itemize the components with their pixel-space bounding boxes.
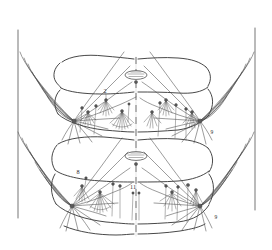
label-seta-9-upper: 9 [211, 129, 214, 135]
label-seta-8: 8 [76, 168, 79, 175]
seta-stalk-lower-left-b [119, 185, 122, 218]
spiracle-lower [125, 152, 147, 166]
spiracle-upper [125, 71, 147, 84]
tufted-seta-lower-left-a [74, 185, 89, 203]
palmate-seta-upper-right [140, 52, 254, 144]
palmate-seta-upper-left [20, 52, 136, 144]
scientific-line-drawing: 2 9 8 11 9 [0, 0, 272, 250]
seta-stalk-lower-right-c [165, 185, 168, 219]
tufted-seta-lower-right-a [160, 191, 186, 212]
tufted-seta-upper-right-b [158, 99, 174, 117]
seta-stalk-upper-right-b [175, 104, 178, 138]
figure-root: 2 9 8 11 9 [0, 0, 272, 250]
label-seta-11: 11 [130, 183, 136, 190]
label-seta-9-lower: 9 [215, 214, 218, 220]
seta-stalk-lower-left-a [112, 183, 115, 216]
palmate-fan-upper-left [110, 110, 134, 131]
label-seta-2: 2 [103, 87, 106, 94]
